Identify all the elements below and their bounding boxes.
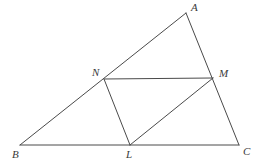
segment-layer xyxy=(20,13,239,145)
segment-lm xyxy=(130,78,213,145)
geometry-figure: A B C N M L xyxy=(0,0,259,166)
vertex-label-b: B xyxy=(12,149,19,160)
vertex-label-m: M xyxy=(219,68,228,79)
vertex-label-a: A xyxy=(191,2,198,13)
vertex-label-n: N xyxy=(92,67,99,78)
triangle-diagram-canvas xyxy=(0,0,259,166)
segment-nl xyxy=(104,79,130,145)
segment-nm xyxy=(104,78,213,79)
vertex-label-l: L xyxy=(126,149,132,160)
vertex-label-c: C xyxy=(243,146,250,157)
side-ab xyxy=(20,13,186,145)
